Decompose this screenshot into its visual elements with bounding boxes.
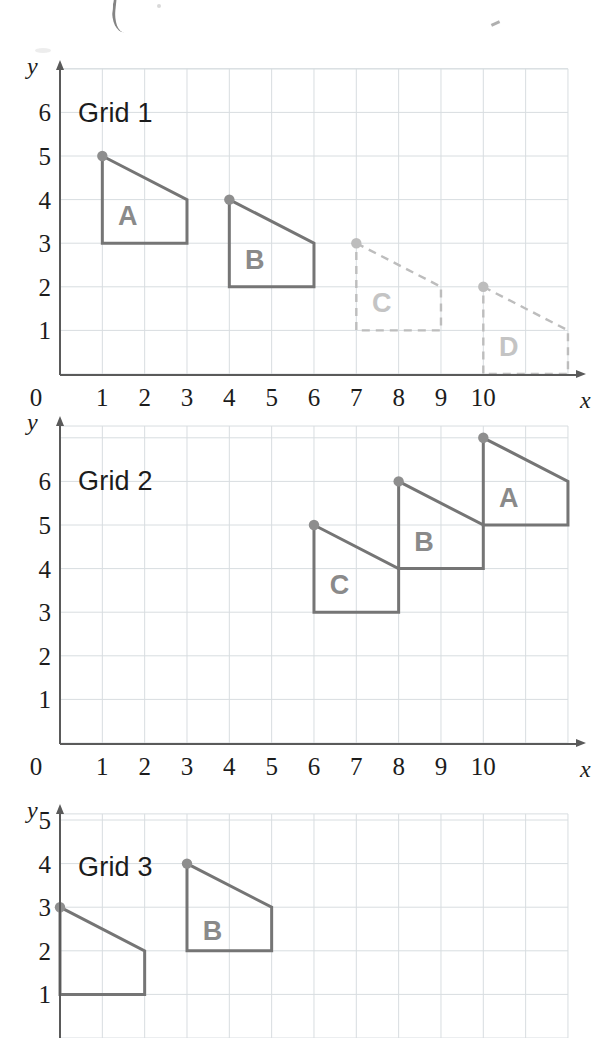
y-axis-arrow-icon xyxy=(56,804,64,814)
y-tick-label: 5 xyxy=(39,808,52,833)
shape-vertex-marker xyxy=(309,520,319,530)
ink-dot-artifact xyxy=(157,4,161,8)
x-axis-arrow-icon xyxy=(576,370,586,378)
y-tick-label: 4 xyxy=(39,187,52,212)
x-tick-label: 7 xyxy=(350,385,363,410)
grid-1-title: Grid 1 xyxy=(78,100,153,127)
axis-origin-label: 0 xyxy=(30,385,43,410)
x-tick-label: 9 xyxy=(435,754,448,779)
shape-label-c: C xyxy=(330,572,350,599)
x-tick-label: 3 xyxy=(181,385,194,410)
shape-label-c: C xyxy=(372,290,392,317)
x-axis-name: x xyxy=(580,757,591,781)
shape-vertex-marker xyxy=(97,151,107,161)
ink-smudge-artifact xyxy=(110,0,128,33)
x-tick-label: 6 xyxy=(308,385,321,410)
x-axis-line xyxy=(60,743,576,745)
grid-3-title: Grid 3 xyxy=(78,854,153,881)
x-tick-label: 4 xyxy=(223,754,236,779)
y-axis-name: y xyxy=(27,798,38,822)
y-tick-label: 3 xyxy=(39,895,52,920)
shape-label-a: A xyxy=(118,203,138,230)
x-tick-label: 5 xyxy=(265,385,278,410)
y-axis-line xyxy=(59,70,61,375)
shape-label-a: A xyxy=(499,484,519,511)
y-tick-label: 2 xyxy=(39,938,52,963)
x-axis-arrow-icon xyxy=(576,739,586,747)
y-axis-name: y xyxy=(27,410,38,434)
grid-1-plot-area: y x Grid 1 012345612345678910 ABCD xyxy=(60,70,568,375)
shape-vertex-marker xyxy=(224,194,234,204)
shape-vertex-marker xyxy=(351,238,361,248)
scan-artifacts xyxy=(0,0,607,56)
y-tick-label: 1 xyxy=(39,687,52,712)
x-tick-label: 1 xyxy=(96,754,109,779)
y-axis-line xyxy=(59,814,61,1038)
shape-vertex-marker xyxy=(393,476,403,486)
shape-vertex-marker xyxy=(182,858,192,868)
x-axis-line xyxy=(60,374,576,376)
grid-2-title: Grid 2 xyxy=(78,468,153,495)
y-tick-label: 1 xyxy=(39,982,52,1007)
x-tick-label: 6 xyxy=(308,754,321,779)
x-tick-label: 2 xyxy=(138,385,151,410)
shape-vertex-marker xyxy=(478,282,488,292)
y-axis-line xyxy=(59,426,61,744)
grid-3-plot-area: y Grid 3 12345 B xyxy=(60,814,568,1038)
x-tick-label: 9 xyxy=(435,385,448,410)
shape-label-b: B xyxy=(414,528,434,555)
shape-vertex-marker xyxy=(478,433,488,443)
grid-2-plot-area: y x Grid 2 012345612345678910 CBA xyxy=(60,426,568,744)
x-tick-label: 1 xyxy=(96,385,109,410)
y-tick-label: 2 xyxy=(39,274,52,299)
y-tick-label: 6 xyxy=(39,100,52,125)
y-axis-arrow-icon xyxy=(56,416,64,426)
y-tick-label: 4 xyxy=(39,556,52,581)
x-tick-label: 7 xyxy=(350,754,363,779)
worksheet-page: y x Grid 1 012345612345678910 ABCD y x G… xyxy=(0,0,607,1038)
x-tick-label: 10 xyxy=(471,754,496,779)
grid-panel-3: y Grid 3 12345 B xyxy=(0,796,607,1038)
y-tick-label: 3 xyxy=(39,231,52,256)
y-tick-label: 1 xyxy=(39,318,52,343)
y-tick-label: 5 xyxy=(39,513,52,538)
x-tick-label: 8 xyxy=(392,385,405,410)
x-tick-label: 10 xyxy=(471,385,496,410)
y-axis-name: y xyxy=(27,54,38,78)
shape-label-d: D xyxy=(499,333,519,360)
x-tick-label: 3 xyxy=(181,754,194,779)
x-tick-label: 2 xyxy=(138,754,151,779)
y-tick-label: 2 xyxy=(39,643,52,668)
y-axis-arrow-icon xyxy=(56,60,64,70)
ink-speck-artifact xyxy=(491,20,500,26)
shape-label-b: B xyxy=(203,918,223,945)
x-tick-label: 4 xyxy=(223,385,236,410)
grid-panel-2: y x Grid 2 012345612345678910 CBA xyxy=(0,408,607,790)
grid-3-graphics xyxy=(60,814,568,1038)
shape-label-b: B xyxy=(245,246,265,273)
y-tick-label: 6 xyxy=(39,469,52,494)
y-tick-label: 3 xyxy=(39,600,52,625)
x-tick-label: 8 xyxy=(392,754,405,779)
x-tick-label: 5 xyxy=(265,754,278,779)
grid-panel-1: y x Grid 1 012345612345678910 ABCD xyxy=(0,52,607,402)
axis-origin-label: 0 xyxy=(30,754,43,779)
y-tick-label: 4 xyxy=(39,851,52,876)
y-tick-label: 5 xyxy=(39,144,52,169)
